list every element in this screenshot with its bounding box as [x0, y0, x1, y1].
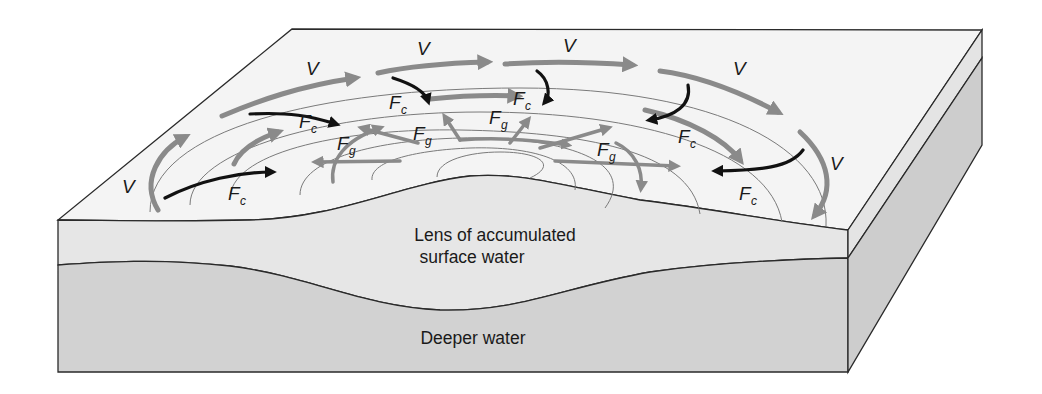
svg-text:g: g [349, 144, 356, 158]
water-block [58, 29, 982, 372]
svg-text:c: c [751, 194, 757, 208]
svg-text:c: c [240, 194, 246, 208]
svg-text:c: c [525, 99, 531, 113]
gravity-arrow-left [316, 161, 400, 162]
svg-text:g: g [609, 150, 616, 164]
svg-text:c: c [401, 103, 407, 117]
lens-label-line2: surface water [419, 247, 524, 267]
velocity-arrow-top-2 [505, 62, 632, 65]
lens-label: Lens of accumulated [414, 225, 576, 245]
ocean-gyre-diagram: V V V V V V F c F c F c F c F c F c [0, 0, 1042, 394]
deep-water-label: Deeper water [420, 328, 525, 348]
svg-text:g: g [501, 118, 508, 132]
svg-text:g: g [425, 134, 432, 148]
svg-text:c: c [311, 122, 317, 136]
svg-text:c: c [690, 137, 696, 151]
